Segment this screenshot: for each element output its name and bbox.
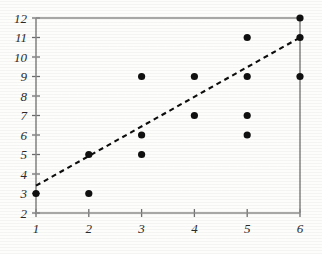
y-tick-label-11: 11 <box>15 30 27 45</box>
data-point <box>244 112 251 119</box>
data-point <box>138 131 145 138</box>
scatter-chart: 23456789101112 123456 <box>0 0 322 254</box>
y-tick-label-10: 10 <box>14 50 28 65</box>
data-point <box>244 131 251 138</box>
y-tick-label-9: 9 <box>21 69 28 84</box>
y-tick-label-8: 8 <box>21 89 28 104</box>
data-point <box>191 112 198 119</box>
data-point <box>191 73 198 80</box>
data-point <box>138 151 145 158</box>
x-tick-label-5: 5 <box>244 221 251 236</box>
y-tick-label-3: 3 <box>20 186 28 201</box>
data-point <box>244 34 251 41</box>
x-tick-label-3: 3 <box>137 221 145 236</box>
y-tick-label-7: 7 <box>21 108 28 123</box>
x-tick-label-6: 6 <box>297 221 304 236</box>
y-tick-label-2: 2 <box>21 206 28 221</box>
x-axis-labels: 123456 <box>33 221 304 236</box>
data-point <box>32 190 39 197</box>
y-tick-label-4: 4 <box>21 167 28 182</box>
x-tick-label-2: 2 <box>86 221 93 236</box>
data-point <box>138 73 145 80</box>
x-tick-label-4: 4 <box>191 221 198 236</box>
y-tick-label-6: 6 <box>21 128 28 143</box>
x-tick-label-1: 1 <box>33 221 40 236</box>
y-tick-label-5: 5 <box>21 147 28 162</box>
data-points-group <box>32 14 303 197</box>
trend-line <box>36 38 300 186</box>
data-point <box>296 34 303 41</box>
y-axis-labels: 23456789101112 <box>14 11 28 221</box>
data-point <box>85 151 92 158</box>
data-point <box>296 73 303 80</box>
y-tick-label-12: 12 <box>14 11 28 26</box>
data-point <box>85 190 92 197</box>
data-point <box>296 14 303 21</box>
data-point <box>244 73 251 80</box>
plot-area: 23456789101112 123456 <box>0 0 322 254</box>
